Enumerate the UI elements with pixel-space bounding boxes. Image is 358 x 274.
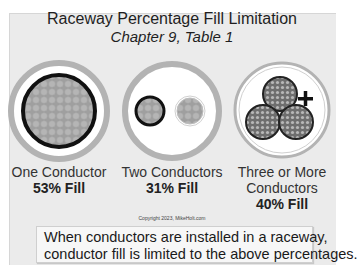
figure-two-conductors: Two Conductors 31% Fill xyxy=(120,164,224,196)
fill-percentage: 31% Fill xyxy=(120,180,224,196)
raceway-two-conductors xyxy=(125,64,219,158)
note-text: When conductors are installed in a racew… xyxy=(44,229,358,263)
figure-label: One Conductor xyxy=(9,164,109,180)
figure-label: Two Conductors xyxy=(120,164,224,180)
figure-label-line2: Conductors xyxy=(232,180,332,196)
raceway-one-conductor xyxy=(11,63,107,159)
note-line-2: conductor fill is limited to the above p… xyxy=(44,246,358,263)
note-line-1: When conductors are installed in a racew… xyxy=(44,229,358,246)
figure-one-conductor: One Conductor 53% Fill xyxy=(9,164,109,196)
copyright-text: Copyright 2023, MikeHolt.com xyxy=(0,215,344,221)
fill-percentage: 53% Fill xyxy=(9,180,109,196)
raceway-three-or-more-conductors xyxy=(235,63,329,157)
note-box: When conductors are installed in a racew… xyxy=(36,226,313,263)
fill-percentage: 40% Fill xyxy=(232,196,332,212)
figure-three-or-more-conductors: Three or More Conductors 40% Fill xyxy=(232,164,332,212)
figure-label-line1: Three or More xyxy=(232,164,332,180)
